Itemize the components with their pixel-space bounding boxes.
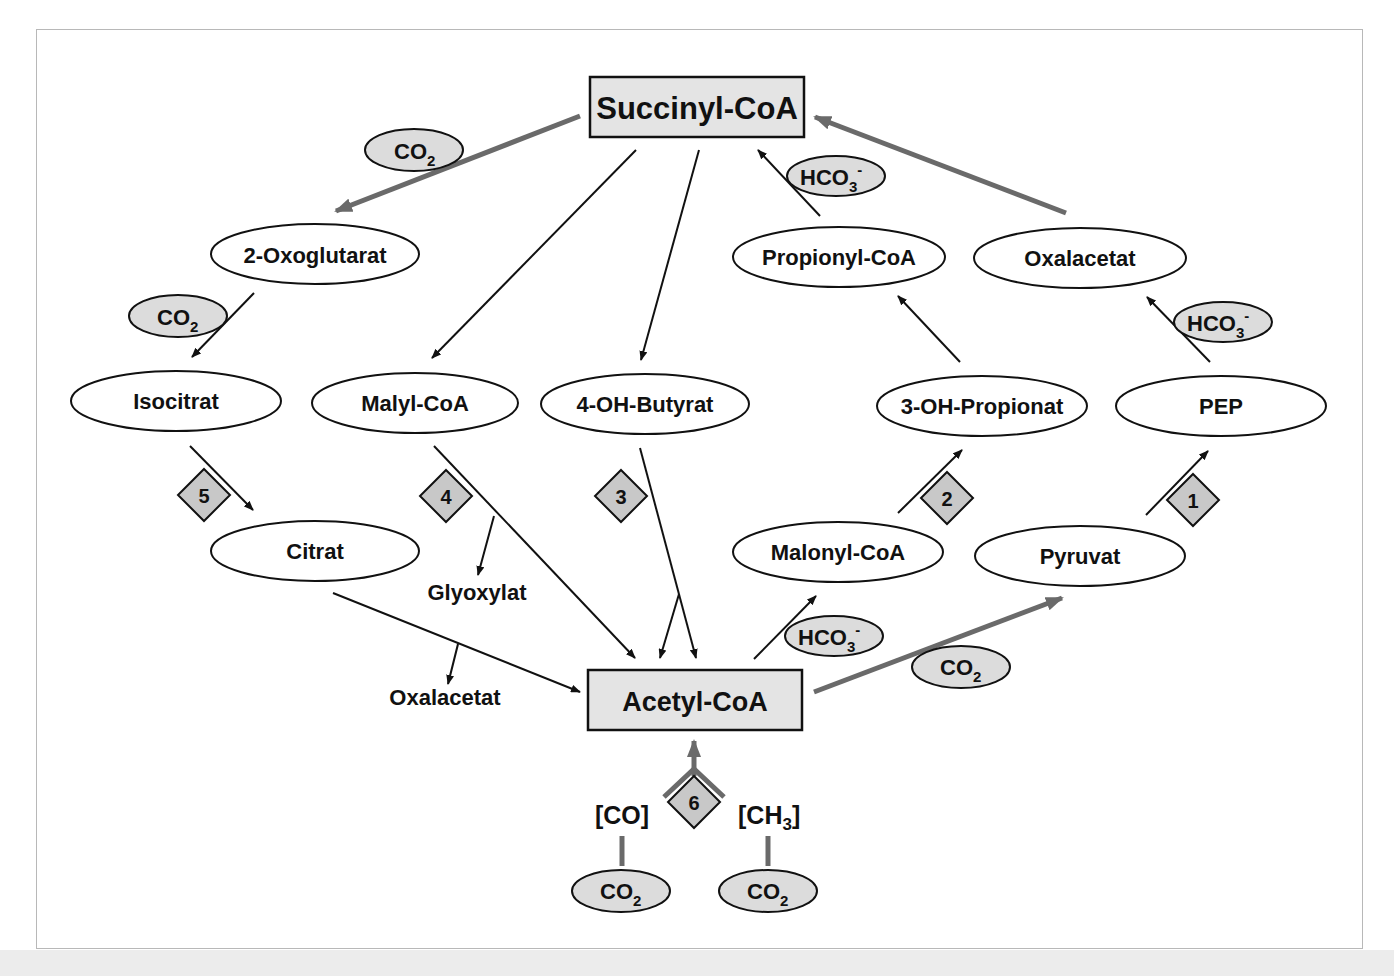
glyoxylat-label: Glyoxylat <box>427 580 527 605</box>
arrow-malyl-to-acetyl <box>434 446 635 658</box>
pathway-diamond-2: 2 <box>921 472 973 524</box>
cofactor-co2-5: CO2 <box>719 870 817 912</box>
node-isocitrat: Isocitrat <box>71 371 281 431</box>
node-succinyl-coa: Succinyl-CoA <box>590 77 804 137</box>
arrow-citrat-to-oxalacetat <box>448 644 458 684</box>
propionyl-coa-label: Propionyl-CoA <box>762 245 916 270</box>
pathway-4-number: 4 <box>440 486 452 508</box>
arrow-ohpropionat-to-propionyl <box>898 296 960 362</box>
arrow-succinyl-to-oxoglutarat <box>336 116 580 211</box>
co-bracket-label: [CO] <box>595 801 649 829</box>
arrow-succinyl-to-malyl <box>432 150 636 358</box>
cofactor-co2-2: CO2 <box>129 295 227 337</box>
cofactor-hco3-1: HCO3- <box>787 156 885 196</box>
node-acetyl-coa: Acetyl-CoA <box>588 670 802 730</box>
node-oh-propionat: 3-OH-Propionat <box>877 376 1087 436</box>
ch3-bracket-label: [CH3] <box>738 801 800 834</box>
cofactor-co2-1: CO2 <box>365 129 463 171</box>
arrow-succinyl-to-butyrat <box>641 150 699 360</box>
node-oh-butyrat: 4-OH-Butyrat <box>541 374 749 434</box>
oxoglutarat-label: 2-Oxoglutarat <box>243 243 387 268</box>
arrow-malyl-to-glyoxylat <box>478 516 494 575</box>
node-oxalacetat-top: Oxalacetat <box>974 228 1186 288</box>
pathway-5-number: 5 <box>198 485 209 507</box>
oh-propionat-label: 3-OH-Propionat <box>901 394 1064 419</box>
pathway-1-number: 1 <box>1187 490 1198 512</box>
pathway-diamond-5: 5 <box>178 469 230 521</box>
ch3-sub: 3 <box>782 815 791 834</box>
node-propionyl-coa: Propionyl-CoA <box>733 227 945 287</box>
malyl-coa-label: Malyl-CoA <box>361 391 469 416</box>
arrow-citrat-to-acetyl <box>333 593 580 692</box>
pathway-6-number: 6 <box>688 792 699 814</box>
pathway-diamond-1: 1 <box>1167 474 1219 526</box>
pathway-diagram: Succinyl-CoA Acetyl-CoA 2-Oxoglutarat Pr… <box>0 0 1394 976</box>
node-malonyl-coa: Malonyl-CoA <box>733 522 943 582</box>
citrat-label: Citrat <box>286 539 344 564</box>
oxalacetat-top-label: Oxalacetat <box>1024 246 1136 271</box>
acetyl-coa-label: Acetyl-CoA <box>622 687 768 717</box>
cofactor-hco3-2: HCO3- <box>1174 302 1272 342</box>
oh-butyrat-label: 4-OH-Butyrat <box>577 392 715 417</box>
cofactor-co2-4: CO2 <box>572 870 670 912</box>
node-citrat: Citrat <box>211 521 419 581</box>
malonyl-coa-label: Malonyl-CoA <box>771 540 906 565</box>
isocitrat-label: Isocitrat <box>133 389 219 414</box>
node-oxoglutarat: 2-Oxoglutarat <box>211 224 419 284</box>
cofactor-co2-3: CO2 <box>912 646 1010 688</box>
ch3-main: [CH <box>738 801 782 829</box>
pyruvat-label: Pyruvat <box>1040 544 1121 569</box>
cofactor-hco3-3: HCO3- <box>785 616 883 656</box>
arrow-butyrat-branch-to-acetyl <box>660 594 679 658</box>
pathway-2-number: 2 <box>941 488 952 510</box>
succinyl-coa-label: Succinyl-CoA <box>596 91 798 126</box>
pathway-diamond-3: 3 <box>595 470 647 522</box>
node-malyl-coa: Malyl-CoA <box>312 373 518 433</box>
node-pep: PEP <box>1116 376 1326 436</box>
pathway-3-number: 3 <box>615 486 626 508</box>
node-pyruvat: Pyruvat <box>975 526 1185 586</box>
oxalacetat-bottom-label: Oxalacetat <box>389 685 501 710</box>
ch3-close: ] <box>792 801 800 829</box>
arrow-butyrat-to-acetyl <box>640 448 696 658</box>
pep-label: PEP <box>1199 394 1243 419</box>
